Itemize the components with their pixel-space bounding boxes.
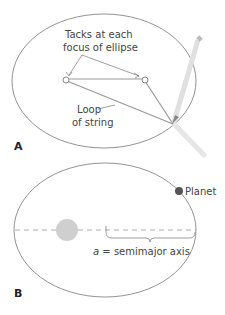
panel-a-label: A xyxy=(14,140,23,153)
tack-right xyxy=(142,77,148,83)
tacks-label-line2: focus of ellipse xyxy=(63,42,138,53)
planet-label: Planet xyxy=(185,186,216,197)
semimajor-desc: = semimajor axis xyxy=(99,246,190,257)
pencil-shadow xyxy=(174,124,204,155)
sun-icon xyxy=(56,219,78,241)
panel-b-label: B xyxy=(14,287,22,300)
semimajor-axis-label: a = semimajor axis xyxy=(93,246,190,257)
loop-label-line2: of string xyxy=(72,117,114,128)
panel-b: Planet a = semimajor axis B xyxy=(14,163,216,300)
loop-label-line1: Loop xyxy=(77,104,101,115)
tacks-callout-lines xyxy=(66,55,139,78)
planet-icon xyxy=(175,187,183,195)
semimajor-brace xyxy=(106,226,195,242)
tack-left xyxy=(63,77,69,83)
panel-a: Tacks at each focus of ellipse Loop of s… xyxy=(12,14,204,155)
tacks-label-line1: Tacks at each xyxy=(64,29,133,40)
kepler-ellipse-diagram: Tacks at each focus of ellipse Loop of s… xyxy=(0,0,225,315)
